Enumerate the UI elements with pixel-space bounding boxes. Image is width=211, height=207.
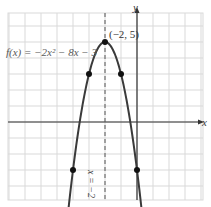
function-label: f(x) = −2x² − 8x − 3 bbox=[6, 46, 97, 58]
graph-canvas bbox=[0, 0, 211, 207]
y-axis-label: y bbox=[133, 1, 138, 13]
data-point bbox=[70, 167, 76, 173]
axes bbox=[8, 7, 204, 200]
symmetry-label: x = −2 bbox=[86, 170, 97, 198]
data-point bbox=[118, 71, 124, 77]
data-point bbox=[102, 39, 108, 45]
data-point bbox=[86, 71, 92, 77]
vertex-label: (−2, 5) bbox=[109, 28, 139, 40]
data-point bbox=[134, 167, 140, 173]
x-axis-label: x bbox=[202, 116, 207, 128]
